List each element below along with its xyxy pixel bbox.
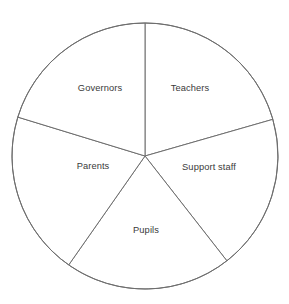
pie-chart-svg [0,0,289,304]
pie-chart: TeachersSupport staffPupilsParentsGovern… [0,0,289,304]
pie-slice-label-pupils: Pupils [133,226,159,235]
pie-slice-label-teachers: Teachers [171,84,210,93]
pie-slice-label-parents: Parents [77,162,110,171]
pie-slice-group [12,23,278,289]
pie-slice-label-support-staff: Support staff [182,163,236,172]
pie-slice-label-governors: Governors [78,84,122,93]
